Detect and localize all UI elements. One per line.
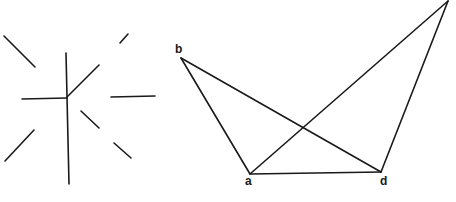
line-fragment xyxy=(111,96,155,97)
line-fragment xyxy=(120,34,128,43)
radial-line-figure xyxy=(4,34,155,184)
line-fragment xyxy=(67,65,99,97)
crossed-quadrilateral-figure: bad xyxy=(175,1,448,188)
vertex-label-b: b xyxy=(175,42,182,56)
line-fragment xyxy=(4,36,35,67)
edge-a-d xyxy=(250,172,381,174)
edge-d-c xyxy=(381,1,448,172)
edge-b-a xyxy=(181,58,250,174)
vertex-label-a: a xyxy=(245,174,252,188)
edge-a-c xyxy=(250,1,448,174)
diagram-canvas: bad xyxy=(0,0,456,202)
line-fragment xyxy=(66,53,69,184)
line-fragment xyxy=(114,143,131,158)
vertex-label-d: d xyxy=(380,174,387,188)
line-fragment xyxy=(5,130,34,161)
edge-b-d xyxy=(181,58,381,172)
line-fragment xyxy=(22,98,67,99)
line-fragment xyxy=(81,111,99,128)
